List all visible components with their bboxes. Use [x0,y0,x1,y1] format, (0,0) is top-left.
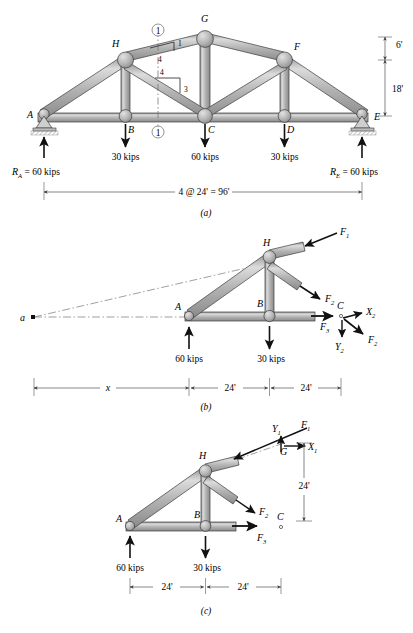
dimension-label-24ft-1-c: 24' [161,582,173,592]
load-label-A-b: 60 kips [175,354,203,364]
point-label-a: a [20,312,25,323]
bottom-chord-c [126,522,236,531]
slope-run-4: 4 [158,55,162,64]
vertical-dim-label-6ft: 6' [396,40,403,50]
joint-label-D: D [286,124,295,135]
load-label-B-c: 30 kips [193,563,221,573]
joint-label-H: H [111,38,120,49]
joint-label-C-c: C [277,511,284,522]
load-label-B: 30 kips [112,152,140,162]
joint-label-B-b: B [257,298,263,309]
load-label-D: 30 kips [271,152,299,162]
section-mark-bottom-label: 1 [156,128,161,138]
bottom-chord-b [185,312,315,321]
joint-label-B-c: B [194,509,200,520]
dimension-label-24ft-2-b: 24' [300,383,312,393]
load-label-B-b: 30 kips [257,354,285,364]
truss-figure: A B C D E F G H 1 1 1 4 4 3 30 k [0,0,413,633]
span-dimension-label: 4 @ 24' = 96' [179,187,230,197]
panel-caption-b: (b) [200,402,211,413]
section-mark-top-label: 1 [156,26,161,36]
dimension-label-x-b: x [105,382,111,393]
slope-rise-4: 4 [160,68,164,77]
panel-caption-a: (a) [200,208,211,219]
dimension-label-24ft-1-b: 24' [224,383,236,393]
joint-label-A-b: A [174,301,182,312]
joint-label-A-c: A [115,513,123,524]
joint-label-E: E [373,111,380,122]
joint-label-C-b: C [337,300,344,311]
load-label-A-c: 60 kips [116,563,144,573]
joint-label-A: A [26,109,34,120]
joint-label-G: G [201,13,208,24]
joint-label-F: F [293,41,301,52]
dimension-label-24ft-2-c: 24' [237,582,249,592]
vertical-dimension-label-c: 24' [298,481,310,491]
vertical-dim-label-18ft: 18' [392,84,404,94]
joint-label-C: C [208,124,215,135]
slope-rise-1: 1 [178,39,182,48]
load-label-C: 60 kips [191,152,219,162]
joint-label-B: B [128,124,134,135]
joint-label-H-c: H [198,450,207,461]
panel-caption-c: (c) [201,606,212,617]
joint-label-H-b: H [262,237,271,248]
slope-run-3: 3 [184,85,188,94]
